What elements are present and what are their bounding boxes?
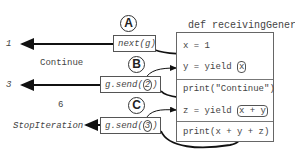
- printed-output-continue: Continue: [40, 58, 83, 68]
- call-box-c: g.send(3): [100, 117, 161, 134]
- call-c-prefix: g.send(: [105, 121, 143, 131]
- step-label-b: B: [128, 56, 145, 73]
- call-b-prefix: g.send(: [105, 80, 143, 90]
- call-b-suffix: ): [152, 80, 157, 90]
- code-line-4: z = yield x + y: [183, 106, 268, 116]
- step-label-a: A: [120, 15, 137, 32]
- result-b: 3: [6, 80, 11, 90]
- code-line-5: print(x + y + z): [183, 127, 269, 137]
- call-box-a: next(g): [113, 35, 156, 52]
- call-c-suffix: ): [152, 121, 157, 131]
- code-line-2-prefix: y = yield: [183, 62, 237, 72]
- call-box-b: g.send(2): [100, 76, 161, 93]
- result-c: StopIteration: [13, 121, 83, 131]
- step-label-c: C: [128, 97, 145, 114]
- code-block: x = 1 y = yield x print("Continue") z = …: [176, 32, 274, 142]
- code-row-divider: print(x + y + z): [177, 121, 273, 143]
- code-line-3: print("Continue"): [183, 84, 275, 94]
- code-line-4-prefix: z = yield: [183, 106, 237, 116]
- send-arg-b: 2: [143, 79, 152, 91]
- code-line-1: x = 1: [183, 41, 210, 51]
- printed-output-sum: 6: [58, 100, 63, 110]
- call-a-expression: next(g): [118, 39, 156, 49]
- yield-value-highlight: x: [237, 61, 246, 73]
- result-a: 1: [6, 39, 11, 49]
- yield-value-highlight: x + y: [237, 105, 268, 117]
- code-line-2: y = yield x: [183, 62, 246, 72]
- function-signature: def receivingGenerator():: [188, 20, 295, 31]
- send-arg-c: 3: [143, 120, 152, 132]
- code-row-divider: print("Continue"): [177, 79, 273, 99]
